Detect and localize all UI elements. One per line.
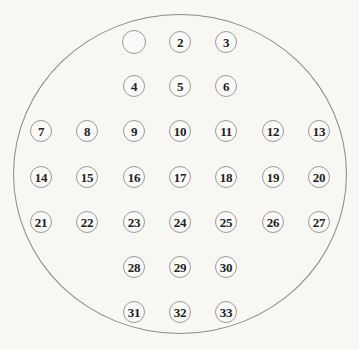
node-circle-9: 9 xyxy=(123,120,145,142)
node-circle-26: 26 xyxy=(262,211,284,233)
node-circle-22: 22 xyxy=(76,211,98,233)
node-circle-19: 19 xyxy=(262,166,284,188)
node-circle-16: 16 xyxy=(123,166,145,188)
node-circle-10: 10 xyxy=(169,120,191,142)
node-circle-21: 21 xyxy=(30,211,52,233)
node-circle-30: 30 xyxy=(215,256,237,278)
node-circle-14: 14 xyxy=(30,166,52,188)
node-circle-25: 25 xyxy=(215,211,237,233)
node-circle-5: 5 xyxy=(169,75,191,97)
node-circle-23: 23 xyxy=(123,211,145,233)
node-circle-11: 11 xyxy=(215,120,237,142)
node-circle-32: 32 xyxy=(169,301,191,323)
node-circle-15: 15 xyxy=(76,166,98,188)
node-circle-17: 17 xyxy=(169,166,191,188)
node-circle-31: 31 xyxy=(123,301,145,323)
node-circle-12: 12 xyxy=(262,120,284,142)
figure-canvas: 2345678910111213141516171819202122232425… xyxy=(0,0,359,349)
node-circle-7: 7 xyxy=(30,120,52,142)
node-circle-18: 18 xyxy=(215,166,237,188)
node-circle-2: 2 xyxy=(169,31,191,53)
node-circle-empty xyxy=(122,30,146,54)
node-circle-29: 29 xyxy=(169,256,191,278)
node-circle-33: 33 xyxy=(215,301,237,323)
node-circle-13: 13 xyxy=(308,120,330,142)
node-circle-20: 20 xyxy=(308,166,330,188)
node-circle-28: 28 xyxy=(123,256,145,278)
node-circle-6: 6 xyxy=(215,75,237,97)
node-circle-24: 24 xyxy=(169,211,191,233)
node-circle-4: 4 xyxy=(123,75,145,97)
node-circle-27: 27 xyxy=(308,211,330,233)
node-circle-3: 3 xyxy=(215,31,237,53)
node-circle-8: 8 xyxy=(76,120,98,142)
